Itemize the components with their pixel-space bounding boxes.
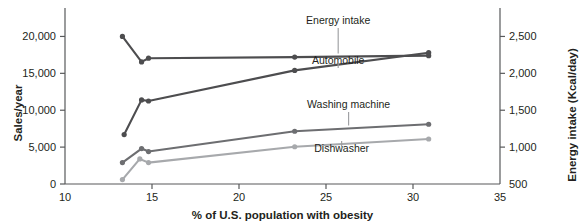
y-axis-left-tick-label: 5,000 (28, 141, 56, 153)
series-line (122, 139, 428, 180)
series-energy-intake (120, 34, 431, 65)
data-point (426, 122, 431, 127)
data-point (292, 68, 297, 73)
data-point (139, 146, 144, 151)
data-point (122, 132, 127, 137)
series-label: Washing machine (307, 98, 390, 110)
data-point (139, 97, 144, 102)
data-point (139, 59, 144, 64)
y-axis-left-tick-label: 20,000 (22, 30, 56, 42)
series-line (122, 124, 428, 162)
y-axis-left-tick-label: 0 (50, 178, 56, 190)
x-axis-title: % of U.S. population with obesity (192, 209, 374, 221)
y-axis-left-tick-label: 10,000 (22, 104, 56, 116)
y-axis-left-title: Sales/year (12, 84, 24, 141)
line-chart: 05,00010,00015,00020,0005001,0001,5002,0… (0, 0, 587, 223)
data-point (146, 149, 151, 154)
data-point (146, 98, 151, 103)
data-point (292, 55, 297, 60)
x-axis-tick-label: 20 (233, 191, 245, 203)
x-axis-tick-label: 25 (320, 191, 332, 203)
data-point (426, 136, 431, 141)
data-point (292, 129, 297, 134)
series-washing-machine (120, 122, 431, 166)
series-dishwasher (120, 136, 431, 182)
x-axis-tick-label: 10 (59, 191, 71, 203)
y-axis-right-tick-label: 1,000 (509, 141, 537, 153)
data-point (146, 56, 151, 61)
data-point (426, 50, 431, 55)
x-axis-tick-label: 35 (494, 191, 506, 203)
data-point (292, 144, 297, 149)
series-line (124, 53, 429, 135)
chart-figure: 05,00010,00015,00020,0005001,0001,5002,0… (0, 0, 587, 223)
series-label: Energy intake (306, 14, 370, 26)
data-point (120, 177, 125, 182)
y-axis-right-tick-label: 1,500 (509, 104, 537, 116)
y-axis-right-tick-label: 2,000 (509, 67, 537, 79)
y-axis-right-tick-label: 2,500 (509, 30, 537, 42)
data-point (137, 156, 142, 161)
y-axis-right-title: Energy intake (Kcal/day) (566, 48, 578, 182)
x-axis-tick-label: 30 (407, 191, 419, 203)
x-axis-tick-label: 15 (146, 191, 158, 203)
data-point (120, 34, 125, 39)
data-point (146, 160, 151, 165)
series-automobile (122, 50, 432, 137)
data-point (120, 160, 125, 165)
y-axis-right-tick-label: 500 (509, 178, 527, 190)
y-axis-left-tick-label: 15,000 (22, 67, 56, 79)
